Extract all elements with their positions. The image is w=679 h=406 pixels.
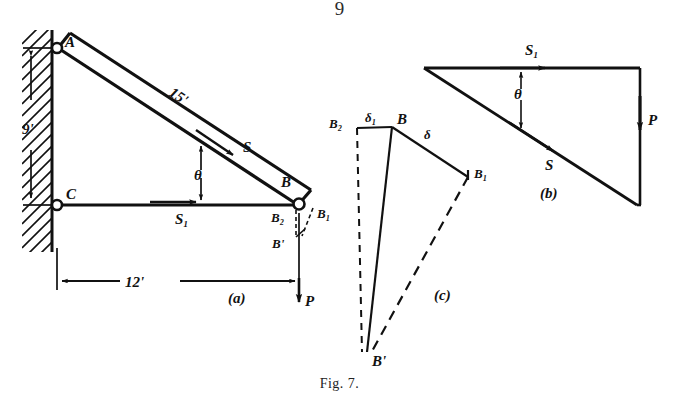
figure-caption: Fig. 7. bbox=[0, 376, 679, 392]
force-S-label: S bbox=[243, 139, 251, 155]
pin-joint-B bbox=[294, 199, 305, 210]
line-B-to-Bprime bbox=[367, 127, 392, 352]
pin-joint-A bbox=[52, 43, 62, 53]
joint-label-C: C bbox=[66, 186, 77, 202]
dashed-line-B1-to-Bprime bbox=[370, 177, 468, 355]
panel-c-label: (c) bbox=[434, 287, 451, 304]
panel-a-label: (a) bbox=[228, 290, 246, 307]
displacement-label-B2: B₂ bbox=[270, 210, 284, 225]
vector-P-label: P bbox=[648, 112, 658, 128]
angle-theta-label: θ bbox=[194, 167, 202, 183]
joint-label-B: B bbox=[280, 174, 291, 190]
displacement-label-B1: B₁ bbox=[316, 206, 330, 221]
force-S1-label: S₁ bbox=[175, 211, 189, 227]
panel-a: A C B 15' S S₁ θ 9' bbox=[22, 14, 330, 309]
segment-delta-label: δ bbox=[424, 127, 431, 142]
panel-c: δ₁ δ B₂ B B₁ B' (c) bbox=[328, 110, 487, 369]
segment-delta1-label: δ₁ bbox=[365, 110, 376, 125]
member-AB bbox=[58, 33, 311, 205]
panel-b-theta-label: θ bbox=[514, 86, 522, 102]
member-AB-length-label: 15' bbox=[166, 84, 191, 108]
panel-b: S₁ S P θ (b) bbox=[424, 42, 658, 205]
point-label-Bprime: B' bbox=[371, 353, 386, 369]
dimension-12ft-label: 12' bbox=[125, 274, 144, 290]
load-P-label: P bbox=[305, 293, 315, 309]
figure-caption-text: Fig. 7. bbox=[320, 376, 360, 391]
joint-label-A: A bbox=[64, 34, 75, 50]
wall-hatching bbox=[22, 14, 52, 284]
pin-joint-C bbox=[52, 200, 62, 210]
figure-root: 9 bbox=[0, 0, 679, 406]
point-label-B2: B₂ bbox=[328, 116, 342, 131]
segment-delta1-line bbox=[357, 127, 392, 128]
panel-b-label: (b) bbox=[540, 185, 558, 202]
vector-S-label: S bbox=[545, 157, 553, 173]
point-label-B1: B₁ bbox=[473, 166, 487, 181]
figure-7-drawing: A C B 15' S S₁ θ 9' bbox=[0, 0, 679, 406]
displacement-label-Bprime: B' bbox=[271, 236, 285, 251]
vector-S-arrow bbox=[510, 123, 553, 151]
dashed-line-B2-to-Bprime bbox=[357, 128, 362, 352]
point-label-B: B bbox=[396, 111, 407, 127]
dimension-9ft-label: 9' bbox=[22, 121, 34, 137]
vector-S1-label: S₁ bbox=[525, 42, 539, 58]
